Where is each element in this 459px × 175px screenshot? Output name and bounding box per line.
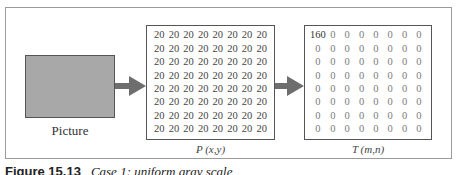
matrix-cell: 0 — [383, 123, 397, 136]
matrix-cell: 20 — [240, 96, 255, 109]
matrix-cell: 0 — [310, 42, 326, 55]
matrix-cell: 20 — [167, 29, 182, 42]
matrix-cell: 0 — [340, 123, 354, 136]
matrix-cell: 20 — [196, 123, 211, 136]
matrix-cell: 20 — [196, 29, 211, 42]
matrix-cell: 0 — [354, 109, 368, 122]
matrix-cell: 20 — [167, 123, 182, 136]
matrix-cell: 20 — [254, 29, 269, 42]
matrix-cell: 0 — [354, 123, 368, 136]
matrix-cell: 20 — [152, 83, 167, 96]
matrix-cell: 0 — [354, 29, 368, 42]
matrix-cell: 0 — [369, 69, 383, 82]
matrix-cell: 0 — [412, 96, 426, 109]
matrix-cell: 0 — [326, 83, 340, 96]
matrix-cell: 20 — [211, 96, 226, 109]
matrix-cell: 0 — [326, 109, 340, 122]
matrix-cell: 0 — [369, 83, 383, 96]
matrix-cell: 20 — [254, 123, 269, 136]
figure-caption: Figure 15.13Case 1: uniform gray scale — [5, 164, 232, 175]
matrix-cell: 20 — [167, 42, 182, 55]
matrix-cell: 0 — [326, 42, 340, 55]
matrix-t-grid: 1600000000000000000000000000000000000000… — [310, 29, 426, 136]
picture-block — [25, 55, 115, 118]
matrix-cell: 0 — [412, 56, 426, 69]
matrix-cell: 20 — [152, 69, 167, 82]
matrix-cell: 0 — [310, 123, 326, 136]
matrix-cell: 0 — [354, 96, 368, 109]
matrix-cell: 0 — [412, 29, 426, 42]
matrix-cell: 20 — [167, 69, 182, 82]
matrix-cell: 20 — [211, 109, 226, 122]
matrix-cell: 0 — [397, 123, 411, 136]
matrix-cell: 20 — [225, 56, 240, 69]
figure-number: Figure 15.13 — [5, 164, 81, 175]
matrix-cell: 0 — [326, 56, 340, 69]
matrix-cell: 20 — [240, 42, 255, 55]
matrix-cell: 0 — [412, 69, 426, 82]
matrix-cell: 20 — [240, 56, 255, 69]
matrix-cell: 0 — [340, 69, 354, 82]
matrix-cell: 0 — [326, 29, 340, 42]
matrix-cell: 20 — [240, 29, 255, 42]
matrix-cell: 0 — [340, 42, 354, 55]
matrix-cell: 0 — [412, 109, 426, 122]
matrix-cell: 20 — [167, 96, 182, 109]
picture-label: Picture — [25, 123, 115, 139]
matrix-cell: 160 — [310, 29, 326, 42]
matrix-cell: 20 — [196, 96, 211, 109]
matrix-cell: 20 — [254, 109, 269, 122]
matrix-cell: 20 — [225, 29, 240, 42]
matrix-cell: 20 — [211, 123, 226, 136]
matrix-cell: 20 — [152, 42, 167, 55]
arrow-right-icon — [275, 76, 305, 96]
matrix-cell: 0 — [397, 42, 411, 55]
matrix-p: 2020202020202020202020202020202020202020… — [146, 25, 275, 140]
matrix-cell: 0 — [326, 123, 340, 136]
matrix-cell: 0 — [383, 56, 397, 69]
matrix-cell: 20 — [181, 42, 196, 55]
matrix-p-grid: 2020202020202020202020202020202020202020… — [152, 29, 269, 136]
matrix-t-label: T (m,n) — [304, 143, 432, 155]
matrix-cell: 20 — [240, 69, 255, 82]
matrix-cell: 0 — [340, 96, 354, 109]
matrix-cell: 20 — [211, 69, 226, 82]
matrix-cell: 20 — [196, 83, 211, 96]
matrix-cell: 0 — [397, 83, 411, 96]
matrix-cell: 20 — [254, 83, 269, 96]
matrix-cell: 0 — [310, 83, 326, 96]
matrix-cell: 0 — [310, 96, 326, 109]
matrix-cell: 0 — [383, 83, 397, 96]
matrix-cell: 0 — [397, 96, 411, 109]
matrix-cell: 20 — [181, 123, 196, 136]
matrix-cell: 0 — [412, 123, 426, 136]
matrix-cell: 0 — [310, 56, 326, 69]
matrix-cell: 20 — [254, 96, 269, 109]
matrix-cell: 20 — [211, 56, 226, 69]
matrix-cell: 20 — [181, 29, 196, 42]
matrix-cell: 0 — [369, 29, 383, 42]
matrix-cell: 20 — [167, 109, 182, 122]
matrix-cell: 0 — [397, 56, 411, 69]
matrix-cell: 20 — [254, 42, 269, 55]
matrix-cell: 20 — [225, 96, 240, 109]
matrix-cell: 0 — [354, 42, 368, 55]
matrix-cell: 20 — [167, 83, 182, 96]
matrix-cell: 0 — [369, 123, 383, 136]
matrix-cell: 0 — [397, 69, 411, 82]
matrix-cell: 20 — [181, 69, 196, 82]
arrow-right-icon — [115, 76, 147, 96]
matrix-cell: 20 — [225, 123, 240, 136]
matrix-cell: 0 — [369, 56, 383, 69]
matrix-cell: 0 — [383, 29, 397, 42]
matrix-cell: 0 — [397, 109, 411, 122]
matrix-cell: 20 — [211, 42, 226, 55]
matrix-cell: 20 — [254, 56, 269, 69]
matrix-cell: 0 — [383, 109, 397, 122]
matrix-cell: 0 — [310, 109, 326, 122]
matrix-cell: 0 — [369, 42, 383, 55]
matrix-cell: 0 — [354, 69, 368, 82]
matrix-cell: 20 — [225, 69, 240, 82]
matrix-cell: 20 — [225, 42, 240, 55]
matrix-cell: 0 — [310, 69, 326, 82]
